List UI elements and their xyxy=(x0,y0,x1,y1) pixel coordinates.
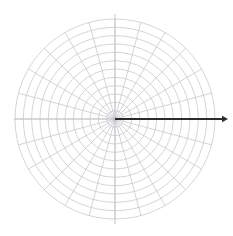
polar-chart-figure: Polar coordinate grid with 12 concentric… xyxy=(0,0,233,236)
polar-grid-svg xyxy=(0,0,233,236)
